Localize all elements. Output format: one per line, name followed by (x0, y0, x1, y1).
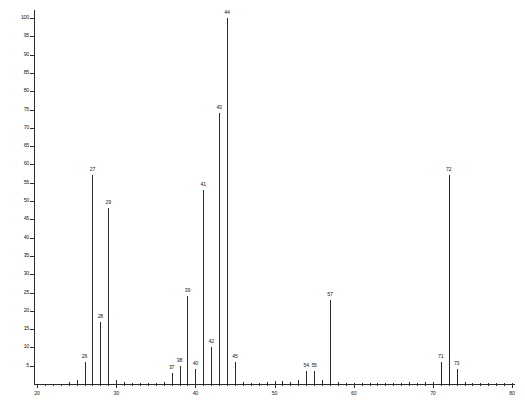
spectrum-peak (132, 383, 133, 384)
x-axis-minor-tick (180, 384, 181, 386)
spectrum-peak (227, 18, 228, 384)
x-axis-minor-tick (338, 384, 339, 386)
x-axis-minor-tick (346, 384, 347, 386)
spectrum-peak (85, 362, 86, 384)
y-axis-tick (30, 238, 34, 239)
peak-label: 57 (327, 292, 332, 297)
x-axis-minor-tick (251, 384, 252, 386)
x-axis-minor-tick (330, 384, 331, 386)
spectrum-peak (267, 382, 268, 384)
y-axis-tick (30, 201, 34, 202)
x-axis-minor-tick (53, 384, 54, 386)
spectrum-peak (282, 381, 283, 384)
x-axis-major-tick (116, 384, 117, 388)
x-axis-minor-tick (417, 384, 418, 386)
x-axis-minor-tick (488, 384, 489, 386)
y-axis-tick (30, 18, 34, 19)
spectrum-peak (243, 382, 244, 384)
peak-label: 28 (98, 314, 103, 319)
spectrum-peak (401, 383, 402, 384)
spectrum-peak (346, 383, 347, 384)
peak-label: 29 (106, 200, 111, 205)
x-axis-minor-tick (243, 384, 244, 386)
spectrum-peak (108, 208, 109, 384)
x-axis-minor-tick (401, 384, 402, 386)
spectrum-peak (69, 382, 70, 384)
x-axis-minor-tick (69, 384, 70, 386)
y-axis-label: 10 (24, 345, 29, 350)
y-axis-tick (30, 110, 34, 111)
y-axis-label: 80 (24, 89, 29, 94)
spectrum-peak (433, 382, 434, 384)
spectrum-peak (314, 371, 315, 384)
x-axis-label: 20 (34, 391, 39, 396)
spectrum-peak (393, 383, 394, 384)
y-axis-tick (30, 274, 34, 275)
y-axis-tick (30, 91, 34, 92)
x-axis-minor-tick (235, 384, 236, 386)
y-axis-label: 45 (24, 217, 29, 222)
x-axis-minor-tick (100, 384, 101, 386)
x-axis-label: 30 (113, 391, 118, 396)
spectrum-peak (92, 175, 93, 384)
spectrum-peak (385, 383, 386, 384)
x-axis-minor-tick (370, 384, 371, 386)
x-axis-minor-tick (377, 384, 378, 386)
spectrum-peak (417, 383, 418, 384)
y-axis-label: 70 (24, 125, 29, 130)
x-axis-minor-tick (425, 384, 426, 386)
y-axis-label: 85 (24, 70, 29, 75)
peak-label: 45 (232, 354, 237, 359)
x-axis-major-tick (37, 384, 38, 388)
spectrum-peak (338, 382, 339, 384)
x-axis-minor-tick (409, 384, 410, 386)
peak-label: 41 (201, 182, 206, 187)
peak-label: 39 (185, 288, 190, 293)
y-axis-tick (30, 293, 34, 294)
spectrum-peak (290, 382, 291, 384)
x-axis-minor-tick (77, 384, 78, 386)
y-axis-label: 15 (24, 326, 29, 331)
x-axis-minor-tick (227, 384, 228, 386)
spectrum-peak (425, 382, 426, 384)
x-axis-minor-tick (465, 384, 466, 386)
x-axis-label: 80 (509, 391, 514, 396)
y-axis-label: 30 (24, 272, 29, 277)
spectrum-peak (472, 383, 473, 384)
y-axis-label: 50 (24, 198, 29, 203)
spectrum-peak (330, 300, 331, 384)
x-axis-minor-tick (211, 384, 212, 386)
spectrum-peak (180, 366, 181, 384)
spectrum-peak (480, 383, 481, 384)
y-axis-label: 35 (24, 253, 29, 258)
peak-label: 55 (311, 363, 316, 368)
spectrum-peak (77, 380, 78, 384)
y-axis-label: 65 (24, 143, 29, 148)
spectrum-peak (362, 383, 363, 384)
x-axis-minor-tick (219, 384, 220, 386)
x-axis-label: 40 (193, 391, 198, 396)
y-axis-tick (30, 183, 34, 184)
peak-label: 37 (169, 365, 174, 370)
x-axis-minor-tick (164, 384, 165, 386)
x-axis-minor-tick (449, 384, 450, 386)
y-axis-line (34, 10, 35, 385)
spectrum-peak (124, 382, 125, 384)
x-axis-minor-tick (267, 384, 268, 386)
y-axis-label: 75 (24, 107, 29, 112)
spectrum-peak (100, 322, 101, 384)
x-axis-minor-tick (148, 384, 149, 386)
x-axis-minor-tick (85, 384, 86, 386)
x-axis-minor-tick (504, 384, 505, 386)
spectrum-peak (259, 383, 260, 384)
spectrum-peak (195, 369, 196, 384)
x-axis-minor-tick (290, 384, 291, 386)
spectrum-peak (116, 380, 117, 384)
x-axis-minor-tick (441, 384, 442, 386)
spectrum-peak (488, 383, 489, 384)
spectrum-peak (211, 347, 212, 384)
y-axis-label: 5 (26, 363, 29, 368)
x-axis-minor-tick (385, 384, 386, 386)
y-axis-tick (30, 36, 34, 37)
x-axis-minor-tick (322, 384, 323, 386)
